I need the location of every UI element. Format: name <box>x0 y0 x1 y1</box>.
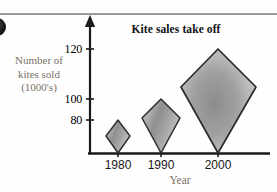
figure-container: Kite sales take off 120 100 80 Number of… <box>0 0 277 192</box>
x-tick-label-1990: 1990 <box>138 158 184 172</box>
kite-marker-1990 <box>142 99 180 153</box>
x-tick-label-2000: 2000 <box>195 158 241 172</box>
y-axis-title-line-2: kites sold <box>6 68 72 82</box>
y-axis-title-line-3: (1000's) <box>6 81 72 95</box>
y-axis-title-line-1: Number of <box>6 54 72 68</box>
x-tick-label-1980: 1980 <box>95 158 141 172</box>
y-axis-title: Number of kites sold (1000's) <box>6 54 72 95</box>
x-axis-title: Year <box>150 174 210 186</box>
y-tick-label-80: 80 <box>56 113 82 128</box>
kite-marker-2000 <box>181 49 256 153</box>
chart-title: Kite sales take off <box>106 23 246 35</box>
kite-marker-1980 <box>106 120 130 153</box>
y-axis-arrow-icon <box>85 15 95 27</box>
